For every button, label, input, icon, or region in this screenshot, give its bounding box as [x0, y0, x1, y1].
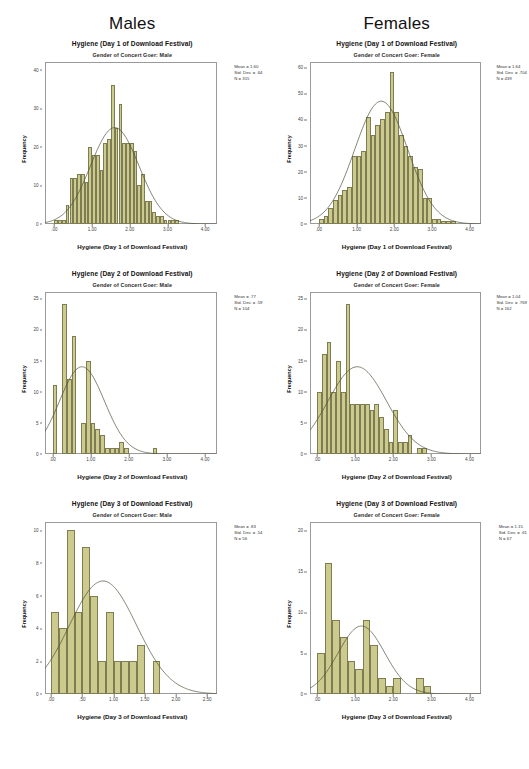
chart-title: Hygiene (Day 2 of Download Festival)	[265, 270, 529, 277]
x-tick-label: 4.00	[465, 227, 474, 232]
plot-area: 0246810.00.501.001.502.002.50	[45, 522, 217, 694]
chart-title: Hygiene (Day 1 of Download Festival)	[0, 40, 265, 47]
histogram-bar	[90, 596, 98, 694]
y-axis-title: Frequency	[21, 365, 27, 392]
plot-inner	[310, 522, 482, 694]
histogram-bar	[393, 678, 401, 694]
x-axis-ticks: .001.002.003.004.00	[310, 454, 482, 468]
y-tick-label: 20	[33, 144, 42, 149]
x-tick-label: 1.00	[351, 457, 360, 462]
stats-annotation: Mean = .77Std. Dev. = .59N = 104	[234, 294, 262, 313]
plot-area: 05101520.001.002.003.004.00	[310, 522, 482, 694]
histogram-bar	[121, 661, 129, 694]
x-tick-label: 1.50	[140, 697, 149, 702]
histogram-bar	[72, 336, 77, 454]
y-tick-label: 5	[300, 651, 306, 656]
x-axis-title: Hygiene (Day 3 of Download Festival)	[0, 713, 265, 720]
y-tick-label: 0	[36, 692, 42, 697]
y-tick-label: 0	[36, 222, 42, 227]
x-tick-label: 4.00	[201, 227, 210, 232]
stats-n: N = 315	[234, 76, 262, 82]
y-tick-label: 40	[33, 67, 42, 72]
bars-group	[45, 522, 217, 694]
stats-annotation: Mean = 1.60Std. Dev. = .64N = 315	[234, 64, 262, 83]
y-tick-label: 15	[298, 358, 307, 363]
x-tick-label: 1.00	[86, 457, 95, 462]
y-tick-label: 6	[36, 593, 42, 598]
histogram-bar	[129, 661, 137, 694]
stats-n: N = 56	[234, 536, 262, 542]
histogram-bar	[137, 645, 145, 694]
x-tick-label: 3.00	[428, 227, 437, 232]
chart-subtitle: Gender of Concert Goer: Male	[0, 282, 265, 288]
y-tick-label: 10	[33, 183, 42, 188]
x-tick-label: 4.00	[201, 457, 210, 462]
y-tick-label: 5	[36, 420, 42, 425]
histogram-page: Males Females Hygiene (Day 1 of Download…	[0, 0, 529, 769]
x-axis-title: Hygiene (Day 2 of Download Festival)	[0, 473, 265, 480]
heading-females: Females	[265, 14, 529, 34]
plot-area: 010203040.001.002.003.004.00	[45, 62, 217, 224]
x-tick-label: .00	[49, 457, 55, 462]
chart-males-day2: Hygiene (Day 2 of Download Festival)Gend…	[0, 264, 265, 494]
stats-annotation: Mean = 1.64Std. Dev. = .704N = 439	[496, 64, 527, 83]
x-tick-label: 2.00	[389, 457, 398, 462]
y-tick-label: 20	[298, 327, 307, 332]
chart-cell-males-day1: Hygiene (Day 1 of Download Festival)Gend…	[0, 34, 265, 264]
y-tick-label: 60	[298, 65, 307, 70]
y-tick-label: 10	[298, 389, 307, 394]
plot-inner	[45, 62, 217, 224]
chart-females-day2: Hygiene (Day 2 of Download Festival)Gend…	[265, 264, 529, 494]
plot-area: 0102030405060.001.002.003.004.00	[310, 62, 482, 224]
bars-group	[310, 292, 482, 454]
chart-females-day1: Hygiene (Day 1 of Download Festival)Gend…	[265, 34, 529, 264]
y-tick-label: 30	[33, 106, 42, 111]
plot-inner	[45, 292, 217, 454]
y-tick-label: 10	[298, 195, 307, 200]
stats-annotation: Mean = .83Std. Dev. = .54N = 56	[234, 524, 262, 543]
stats-n: N = 104	[234, 306, 262, 312]
histogram-bar	[355, 669, 363, 694]
y-tick-label: 10	[33, 528, 42, 533]
x-tick-label: 2.00	[125, 227, 134, 232]
x-tick-label: .50	[79, 697, 85, 702]
y-tick-label: 30	[298, 143, 307, 148]
heading-males: Males	[0, 14, 265, 34]
histogram-bar	[153, 661, 161, 694]
histogram-bar	[59, 628, 67, 694]
x-tick-label: .00	[51, 227, 57, 232]
plot-area: 0510152025.001.002.003.004.00	[45, 292, 217, 454]
x-tick-label: 2.00	[390, 227, 399, 232]
bars-group	[45, 62, 217, 224]
x-tick-label: 1.00	[88, 227, 97, 232]
chart-title: Hygiene (Day 2 of Download Festival)	[0, 270, 265, 277]
chart-cell-females-day3: Hygiene (Day 3 of Download Festival)Gend…	[265, 494, 529, 734]
chart-title: Hygiene (Day 1 of Download Festival)	[265, 40, 529, 47]
chart-males-day3: Hygiene (Day 3 of Download Festival)Gend…	[0, 494, 265, 734]
histogram-bar	[332, 620, 340, 694]
x-tick-label: .00	[48, 697, 54, 702]
bars-group	[310, 62, 482, 224]
stats-n: N = 439	[496, 76, 527, 82]
x-tick-label: 4.00	[465, 457, 474, 462]
histogram-bar	[317, 653, 325, 694]
x-tick-label: .00	[316, 227, 322, 232]
x-axis-ticks: .001.002.003.004.00	[310, 224, 482, 238]
chart-subtitle: Gender of Concert Goer: Female	[265, 282, 529, 288]
column-headings: Males Females	[0, 0, 529, 34]
y-tick-label: 50	[298, 91, 307, 96]
x-axis-ticks: .001.002.003.004.00	[45, 224, 217, 238]
chart-females-day3: Hygiene (Day 3 of Download Festival)Gend…	[265, 494, 529, 734]
y-tick-label: 25	[33, 296, 42, 301]
x-tick-label: 2.00	[124, 457, 133, 462]
histogram-bar	[416, 678, 424, 694]
chart-title: Hygiene (Day 3 of Download Festival)	[265, 500, 529, 507]
stats-annotation: Mean = 1.04Std. Dev. = .769N = 162	[496, 294, 527, 313]
histogram-bar	[106, 612, 114, 694]
x-axis-ticks: .001.002.003.004.00	[310, 694, 482, 708]
chart-grid: Hygiene (Day 1 of Download Festival)Gend…	[0, 34, 529, 734]
x-tick-label: 2.00	[171, 697, 180, 702]
histogram-bar	[363, 620, 371, 694]
y-tick-label: 0	[300, 222, 306, 227]
x-axis-title: Hygiene (Day 3 of Download Festival)	[265, 713, 529, 720]
